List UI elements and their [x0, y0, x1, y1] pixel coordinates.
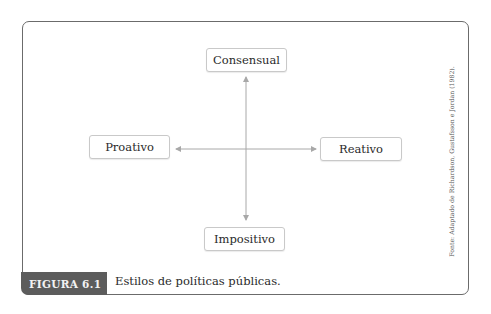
source-note: Fonte: Adaptado de Richardson, Gustafsso…	[444, 64, 458, 259]
node-impositivo: Impositivo	[204, 227, 285, 251]
node-consensual: Consensual	[206, 48, 287, 72]
node-reativo: Reativo	[320, 137, 402, 161]
figure-caption: Estilos de políticas públicas.	[115, 274, 281, 288]
node-proativo: Proativo	[89, 135, 170, 159]
source-text: Fonte: Adaptado de Richardson, Gustafsso…	[448, 66, 455, 256]
figure-label: FIGURA 6.1	[21, 272, 107, 295]
